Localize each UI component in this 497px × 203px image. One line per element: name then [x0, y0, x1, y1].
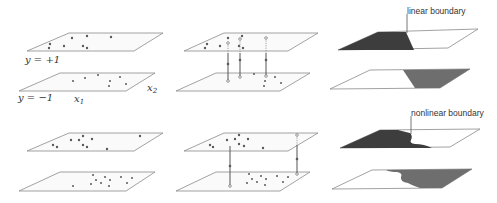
- panel-bottom-middle: [176, 133, 318, 191]
- label-nonlinear-boundary: nonlinear boundary: [411, 108, 485, 118]
- label-x1: x1: [74, 93, 84, 106]
- label-linear-boundary: linear boundary: [407, 6, 466, 16]
- label-y-negative: y = −1: [17, 92, 53, 103]
- panel-top-middle: [176, 33, 318, 91]
- panel-top-left-upper-plane: [27, 33, 163, 51]
- panel-bottom-right-nonlinear: nonlinear boundary: [332, 108, 485, 189]
- panel-top-right-linear: linear boundary: [330, 6, 478, 89]
- panel-bottom-left: [19, 133, 163, 191]
- classification-diagram: y = +1 y = −1 x1 x2: [0, 0, 497, 203]
- label-y-positive: y = +1: [24, 54, 60, 65]
- label-x2: x2: [147, 82, 158, 95]
- panel-top-left-lower-plane: [19, 73, 155, 91]
